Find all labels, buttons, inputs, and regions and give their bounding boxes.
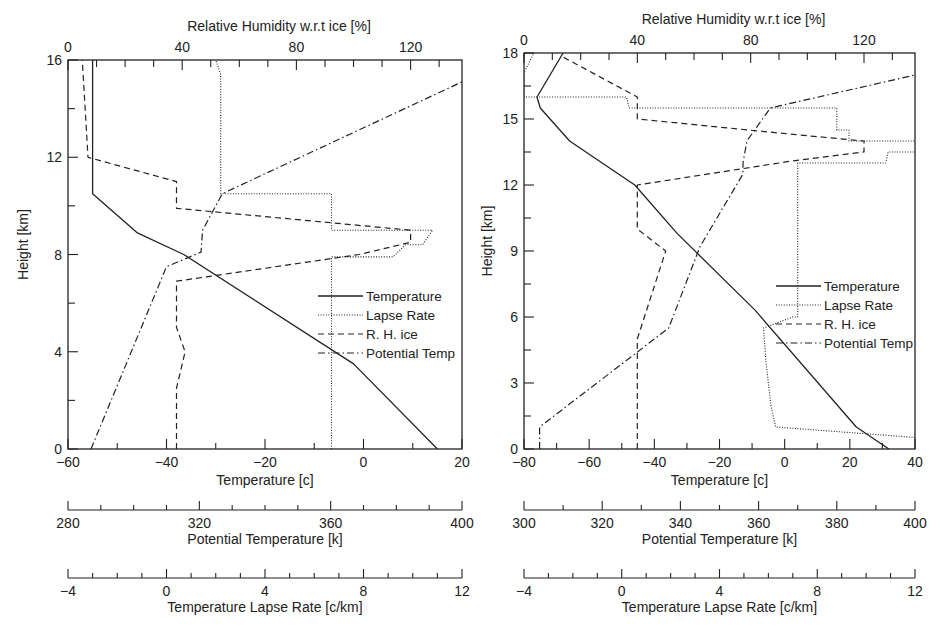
x-tick-label: −40 — [642, 454, 666, 470]
series-lapse-rate — [216, 60, 433, 449]
y-tick-label: 6 — [510, 309, 518, 325]
extra-axis-tick-label: 380 — [825, 515, 849, 531]
extra-axis-tick-label: 12 — [454, 583, 470, 599]
top-tick-label: 0 — [64, 39, 72, 55]
extra-axis-tick-label: 320 — [591, 515, 615, 531]
legend: TemperatureLapse RateR. H. icePotential … — [776, 279, 913, 351]
extra-axis-tick-label: 12 — [907, 583, 923, 599]
extra-axis-tick-label: 320 — [188, 515, 212, 531]
top-axis-title: Relative Humidity w.r.t ice [%] — [642, 11, 826, 27]
legend-label-pt: Potential Temp — [366, 346, 455, 361]
plot-frame — [524, 53, 915, 449]
y-tick-label: 4 — [54, 344, 62, 360]
y-tick-label: 0 — [54, 441, 62, 457]
x-tick-label: 20 — [842, 454, 858, 470]
top-tick-label: 0 — [520, 32, 528, 48]
top-tick-label: 40 — [174, 39, 190, 55]
extra-axis-tick-label: 4 — [261, 583, 269, 599]
y-tick-label: 3 — [510, 375, 518, 391]
y-tick-label: 9 — [510, 243, 518, 259]
y-axis-title: Height [km] — [15, 209, 31, 280]
y-tick-label: 16 — [46, 52, 62, 68]
x-axis-title: Temperature [c] — [216, 472, 313, 488]
extra-axis-tick-label: −4 — [60, 583, 76, 599]
y-tick-label: 8 — [54, 247, 62, 263]
figure: −60−40−20020Temperature [c]04080120Relat… — [0, 0, 948, 640]
top-tick-label: 80 — [289, 39, 305, 55]
top-tick-label: 80 — [743, 32, 759, 48]
legend-label-lr: Lapse Rate — [366, 308, 435, 323]
x-tick-label: −20 — [708, 454, 732, 470]
extra-axis-tick-label: 360 — [747, 515, 771, 531]
x-tick-label: 0 — [781, 454, 789, 470]
series-lapse-rate — [524, 53, 922, 449]
right-panel: −80−60−40−2002040Temperature [c]04080120… — [479, 11, 927, 615]
extra-axis-tick-label: 0 — [163, 583, 171, 599]
extra-axis-tick-label: 280 — [56, 515, 80, 531]
x-tick-label: −40 — [155, 454, 179, 470]
series-temperature — [93, 60, 438, 449]
legend-label-lr: Lapse Rate — [824, 298, 893, 313]
legend-label-t: Temperature — [824, 279, 900, 294]
series-r-h-ice — [564, 57, 864, 449]
x-tick-label: 20 — [454, 454, 470, 470]
x-axis-title: Temperature [c] — [671, 472, 768, 488]
extra-axis-tick-label: 400 — [903, 515, 927, 531]
series-r-h-ice — [82, 60, 410, 449]
extra-axis-tick-label: 340 — [669, 515, 693, 531]
plot-frame — [68, 60, 462, 449]
top-tick-label: 120 — [852, 32, 876, 48]
top-axis-title: Relative Humidity w.r.t ice [%] — [187, 18, 371, 34]
top-tick-label: 120 — [399, 39, 423, 55]
y-tick-label: 0 — [510, 441, 518, 457]
extra-axis-title: Potential Temperature [k] — [187, 531, 342, 547]
x-tick-label: 0 — [360, 454, 368, 470]
legend-label-t: Temperature — [366, 289, 442, 304]
extra-axis-tick-label: −4 — [516, 583, 532, 599]
y-axis-title: Height [km] — [479, 206, 495, 277]
x-tick-label: −60 — [577, 454, 601, 470]
y-tick-label: 12 — [502, 177, 518, 193]
top-tick-label: 40 — [630, 32, 646, 48]
series-temperature — [537, 53, 889, 449]
extra-axis-tick-label: 8 — [360, 583, 368, 599]
y-tick-label: 12 — [46, 149, 62, 165]
extra-axis-tick-label: 4 — [716, 583, 724, 599]
series-potential-temp — [91, 82, 462, 449]
extra-axis-title: Temperature Lapse Rate [c/km] — [622, 599, 817, 615]
extra-axis-tick-label: 300 — [512, 515, 536, 531]
legend-label-rh: R. H. ice — [824, 317, 876, 332]
y-tick-label: 18 — [502, 45, 518, 61]
extra-axis-title: Potential Temperature [k] — [642, 531, 797, 547]
extra-axis-title: Temperature Lapse Rate [c/km] — [167, 599, 362, 615]
extra-axis-tick-label: 400 — [450, 515, 474, 531]
legend-label-pt: Potential Temp — [824, 336, 913, 351]
x-tick-label: −20 — [253, 454, 277, 470]
extra-axis-tick-label: 8 — [813, 583, 821, 599]
legend-label-rh: R. H. ice — [366, 327, 418, 342]
x-tick-label: 40 — [907, 454, 923, 470]
left-panel: −60−40−20020Temperature [c]04080120Relat… — [15, 18, 474, 615]
y-tick-label: 15 — [502, 111, 518, 127]
extra-axis-tick-label: 0 — [618, 583, 626, 599]
legend: TemperatureLapse RateR. H. icePotential … — [318, 289, 455, 361]
series-potential-temp — [540, 75, 915, 449]
extra-axis-tick-label: 360 — [319, 515, 343, 531]
